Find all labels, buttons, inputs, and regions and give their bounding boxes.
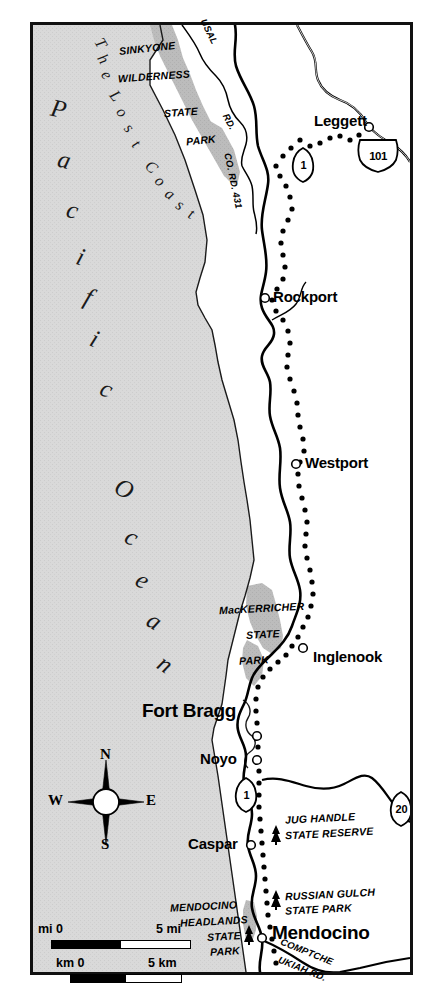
- compass-rose: N S W E: [62, 752, 150, 852]
- city-label-mendocino: Mendocino: [272, 922, 370, 944]
- scale-label-mi-right: 5 mi: [156, 922, 181, 936]
- shield-ca-1-south[interactable]: 1: [236, 780, 257, 810]
- city-label-caspar: Caspar: [188, 835, 238, 852]
- park-label-mackerricher-line-2: STATE: [246, 627, 280, 641]
- shield-label-ca-1-south: 1: [236, 780, 257, 810]
- city-label-noyo: Noyo: [200, 750, 237, 767]
- shield-ca-20[interactable]: 20: [391, 794, 412, 824]
- shield-label-ca-20: 20: [391, 794, 412, 824]
- shield-label-ca-1-north: 1: [293, 150, 314, 180]
- shield-ca-1-north[interactable]: 1: [293, 150, 314, 180]
- compass-label-south: S: [101, 836, 109, 853]
- scale-bar-km-fill: [71, 975, 126, 982]
- shield-us-101[interactable]: 101: [358, 140, 398, 172]
- compass-label-east: E: [146, 792, 156, 809]
- scale-label-km-left: km 0: [56, 956, 85, 970]
- city-label-westport: Westport: [305, 454, 368, 471]
- city-label-leggett: Leggett: [314, 112, 367, 129]
- compass-label-west: W: [48, 792, 63, 809]
- scale-bar-miles: [51, 940, 191, 949]
- scale-bar-km: [70, 974, 182, 983]
- coastal-map: P a c i f i c O c e a n T h e L o s t C …: [0, 0, 438, 1008]
- compass-hub: [93, 789, 119, 815]
- scale-row-km: km 0 5 km: [38, 956, 198, 984]
- park-label-mendocino-headlands-line-3: STATE: [207, 929, 241, 943]
- scale-label-mi-left: mi 0: [38, 922, 63, 936]
- scale-bar: mi 0 5 mi km 0 5 km: [38, 922, 198, 984]
- shield-label-us-101: 101: [358, 140, 398, 172]
- park-label-mackerricher-line-3: PARK: [239, 653, 269, 667]
- scale-row-miles: mi 0 5 mi: [38, 922, 198, 950]
- scale-bar-miles-fill: [52, 941, 121, 948]
- city-label-rockport: Rockport: [273, 288, 337, 305]
- park-label-mendocino-headlands-line-4: PARK: [210, 944, 240, 958]
- city-label-inglenook: Inglenook: [313, 648, 382, 665]
- park-label-sinkyone-line-3: STATE: [164, 105, 199, 119]
- compass-label-north: N: [100, 746, 111, 763]
- city-label-fort-bragg: Fort Bragg: [142, 700, 236, 722]
- scale-label-km-right: 5 km: [148, 956, 177, 970]
